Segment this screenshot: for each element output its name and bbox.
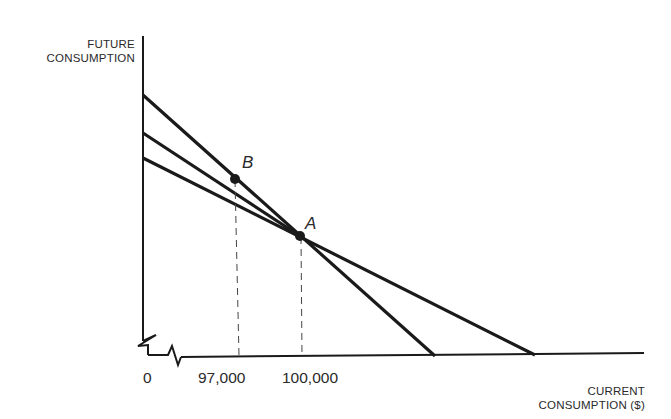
y-axis-label-line2: CONSUMPTION <box>40 51 135 65</box>
x-axis-label-line1: CURRENT <box>520 384 645 398</box>
x-axis <box>181 353 644 357</box>
origin-label: 0 <box>143 369 152 387</box>
x-tick-97000: 97,000 <box>198 369 245 387</box>
steep-budget-line <box>143 95 435 356</box>
point-a <box>295 231 305 241</box>
x-axis-label-line2: CONSUMPTION ($) <box>520 398 645 412</box>
point-a-label: A <box>305 214 316 234</box>
point-b-label: B <box>242 153 253 173</box>
y-axis-label: FUTURE CONSUMPTION <box>40 37 135 65</box>
dashed-line-a <box>301 237 302 356</box>
point-b <box>230 174 240 184</box>
y-axis-break-icon <box>138 335 156 355</box>
flat-budget-line <box>143 158 535 355</box>
y-axis-label-line1: FUTURE <box>40 37 135 51</box>
x-tick-100000: 100,000 <box>282 369 338 387</box>
middle-line <box>143 133 300 236</box>
x-axis-label: CURRENT CONSUMPTION ($) <box>520 384 645 412</box>
x-axis-break-icon <box>148 346 181 365</box>
